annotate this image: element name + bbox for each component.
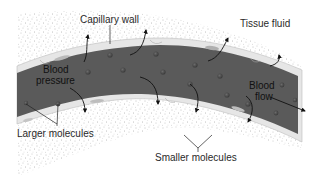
smaller-molecules-bracket	[184, 135, 212, 148]
label-blood-pressure-1: Blood	[43, 64, 69, 75]
label-tissue-fluid: Tissue fluid	[240, 18, 290, 29]
label-blood-pressure-2: pressure	[36, 75, 75, 86]
label-blood-flow-1: Blood	[249, 80, 275, 91]
capillary-diagram: Capillary wall Tissue fluid Blood pressu…	[0, 0, 323, 180]
label-smaller-molecules: Smaller molecules	[155, 152, 237, 163]
label-larger-molecules: Larger molecules	[17, 128, 94, 139]
label-capillary-wall: Capillary wall	[80, 14, 139, 25]
label-blood-flow-2: flow	[255, 91, 274, 102]
